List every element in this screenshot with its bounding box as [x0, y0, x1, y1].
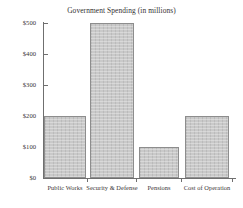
y-axis-label-text: $400 — [23, 50, 36, 57]
bar-cost-of-operation — [185, 116, 229, 178]
y-axis-label-text: $0 — [29, 174, 36, 181]
bar-security-and-defense — [90, 23, 134, 178]
x-axis-tick — [136, 179, 137, 182]
bar-chart-figure: Government Spending (in millions) $500 $… — [0, 0, 243, 208]
x-axis-tick — [232, 179, 233, 182]
y-axis-label-text: $500 — [23, 19, 36, 26]
y-axis-label-text: $200 — [23, 112, 36, 119]
y-axis-label-text: $100 — [23, 143, 36, 150]
x-axis-tick — [181, 179, 182, 182]
bar-public-works — [44, 116, 86, 178]
x-axis-line — [43, 178, 236, 179]
chart-title: Government Spending (in millions) — [0, 6, 243, 15]
y-axis-tick — [44, 85, 48, 86]
x-axis-category-cost-of-operation: Cost of Operation — [173, 184, 241, 191]
bar-pensions — [139, 147, 179, 178]
y-axis-label-text: $300 — [23, 81, 36, 88]
x-axis-tick — [87, 179, 88, 182]
y-axis-tick — [44, 54, 48, 55]
y-axis-tick — [44, 23, 48, 24]
